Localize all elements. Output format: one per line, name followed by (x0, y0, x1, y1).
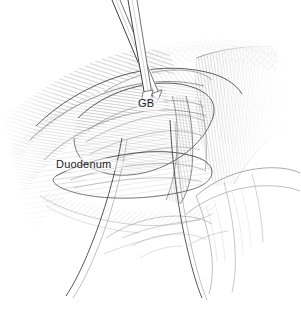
label-gallbladder: GB (138, 98, 154, 109)
label-duodenum: Duodenum (56, 159, 111, 170)
illustration-canvas (0, 0, 301, 310)
surgical-illustration-figure: GB Duodenum (0, 0, 301, 310)
